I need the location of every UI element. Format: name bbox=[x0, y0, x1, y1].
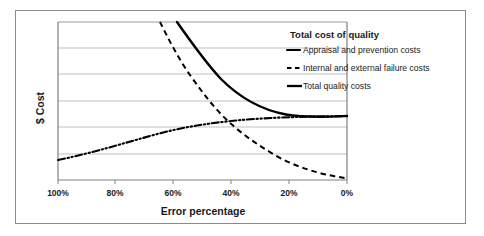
x-tick-label: 20% bbox=[280, 188, 297, 198]
series-appraisal-prevention-costs bbox=[58, 116, 347, 160]
chart-figure: 100% 80% 60% 40% 20% 0% Error percentage… bbox=[0, 0, 484, 236]
legend-title: Total cost of quality bbox=[290, 29, 380, 40]
x-tick-label: 0% bbox=[341, 188, 354, 198]
x-tick-label: 100% bbox=[47, 188, 69, 198]
legend-label-appraisal: Appraisal and prevention costs bbox=[303, 45, 421, 55]
x-axis-tick-labels: 100% 80% 60% 40% 20% 0% bbox=[47, 188, 353, 198]
y-axis-title: $ Cost bbox=[34, 91, 46, 124]
legend-label-total: Total quality costs bbox=[303, 81, 371, 91]
x-tick-label: 60% bbox=[164, 188, 181, 198]
x-tick-label: 40% bbox=[222, 188, 239, 198]
chart-legend: Total cost of quality Appraisal and prev… bbox=[287, 29, 430, 91]
legend-label-failure: Internal and external failure costs bbox=[303, 63, 430, 73]
x-axis-title: Error percentage bbox=[161, 205, 246, 217]
x-tick-label: 80% bbox=[106, 188, 123, 198]
cost-of-quality-chart: 100% 80% 60% 40% 20% 0% Error percentage… bbox=[0, 0, 484, 236]
x-tick-marks bbox=[58, 180, 347, 184]
